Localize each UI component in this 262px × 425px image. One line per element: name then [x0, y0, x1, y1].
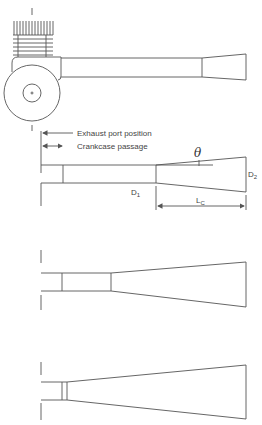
engine-panel — [4, 8, 246, 131]
long-diffuser-panel — [41, 362, 246, 420]
short-diffuser — [202, 54, 246, 80]
medium-diffuser-panel — [41, 250, 246, 310]
d2-label: D2 — [248, 170, 258, 180]
cooling-fins-icon — [13, 21, 53, 57]
exhaust-port-label: Exhaust port position — [77, 129, 152, 138]
medium-diffuser-cone — [111, 262, 246, 307]
crankcase-passage-label: Crankcase passage — [77, 142, 148, 151]
theta-label: θ — [194, 146, 202, 160]
long-diffuser-cone — [67, 365, 246, 419]
lc-label: LC — [196, 196, 205, 206]
d1-label: D1 — [131, 188, 141, 198]
diagram-canvas: Exhaust port position Crankcase passage … — [0, 0, 262, 425]
diffuser-cone — [156, 157, 246, 192]
dimensioned-diffuser-panel: Exhaust port position Crankcase passage … — [41, 129, 258, 210]
